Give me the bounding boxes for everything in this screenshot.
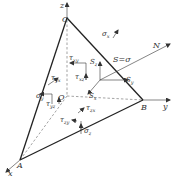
sigma-n-arrow <box>113 30 118 38</box>
tau-xy-label: τxy <box>69 54 79 64</box>
tau-zx-label: τzx <box>86 104 96 113</box>
z-axis-label: z <box>59 1 65 10</box>
axes <box>6 3 170 172</box>
sigma-n-label: σx <box>102 30 110 39</box>
x-axis-label: x <box>8 169 13 176</box>
sx-label: Sx <box>89 92 97 101</box>
tau-yz-label: τyz <box>46 100 56 110</box>
hidden-edges <box>20 20 143 160</box>
tau-zx-arrow <box>78 108 84 113</box>
visible-edges <box>20 18 143 160</box>
sz-label: Sz <box>90 58 98 67</box>
edge-ob <box>67 96 143 100</box>
tau-xz-label: τxz <box>75 73 85 82</box>
vertex-o-label: O <box>58 93 65 102</box>
vertex-b-label: B <box>140 103 147 112</box>
normal-label: N <box>152 41 161 50</box>
tau-yx-label: τyx <box>51 74 61 84</box>
edge-ca <box>20 18 67 160</box>
edge-ab <box>20 100 143 160</box>
tau-zy-label: τzy <box>60 116 70 126</box>
vertex-c-label: C <box>62 15 68 24</box>
resultant-eq-label: S=σ <box>113 55 131 64</box>
vertex-a-label: A <box>16 161 23 170</box>
edge-oa <box>20 96 67 160</box>
sigma-z-label: σz <box>84 127 92 136</box>
sy-label: Sy <box>126 76 134 86</box>
tetrahedron-stress-diagram: C O B A y x z N S=σ Sy Sz Sx σx σy σz τx… <box>0 0 175 176</box>
y-axis-label: y <box>162 102 168 111</box>
tau-zy-arrow <box>72 120 77 121</box>
